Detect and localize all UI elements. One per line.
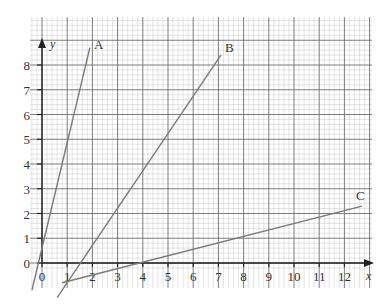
y-tick-label: 5 <box>24 132 31 147</box>
data-lines <box>32 48 362 298</box>
y-tick-label: 2 <box>24 207 31 222</box>
line-b <box>57 55 221 298</box>
line-a-label: A <box>94 37 104 52</box>
x-tick-label: 0 <box>39 269 46 284</box>
x-tick-label: 6 <box>190 269 197 284</box>
y-axis-arrow-icon <box>38 38 46 48</box>
x-tick-label: 4 <box>140 269 147 284</box>
x-axis-arrow-icon <box>364 259 374 267</box>
x-tick-label: 2 <box>89 269 96 284</box>
graph-plot: 0123456789101112012345678 y x A B C <box>0 0 390 306</box>
x-tick-label: 3 <box>114 269 121 284</box>
y-tick-label: 4 <box>24 157 31 172</box>
x-tick-label: 8 <box>240 269 247 284</box>
x-tick-label: 9 <box>266 269 273 284</box>
x-tick-label: 5 <box>165 269 172 284</box>
x-tick-label: 10 <box>288 269 301 284</box>
axes <box>38 38 374 267</box>
line-c-label: C <box>356 188 365 203</box>
x-tick-label: 11 <box>313 269 326 284</box>
y-tick-label: 6 <box>24 108 31 123</box>
y-tick-label: 3 <box>24 182 31 197</box>
y-tick-label: 1 <box>24 231 31 246</box>
y-axis-label: y <box>49 37 56 51</box>
x-tick-label: 7 <box>215 269 222 284</box>
y-tick-label: 0 <box>24 256 31 271</box>
line-b-label: B <box>225 40 234 55</box>
y-tick-label: 7 <box>24 83 31 98</box>
y-tick-label: 8 <box>24 58 31 73</box>
x-tick-label: 12 <box>338 269 351 284</box>
x-axis-label: x <box>365 269 372 283</box>
